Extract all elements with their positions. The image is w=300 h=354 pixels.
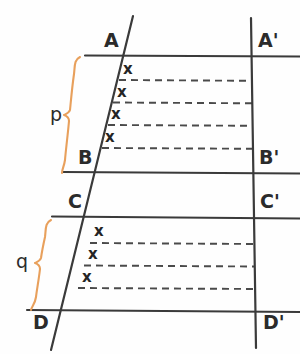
dashed-lines-q-group xyxy=(78,243,255,289)
point-label-b: B xyxy=(78,148,92,167)
dashed-line-q-2 xyxy=(84,266,254,267)
brace-label-p: p xyxy=(50,105,62,124)
segment-mark-q-3: x xyxy=(82,270,92,285)
transversal-lines-group xyxy=(51,16,256,350)
line-cc-prime xyxy=(52,217,300,219)
point-label-d-prime: D' xyxy=(263,313,285,332)
dashed-line-p-3 xyxy=(108,125,253,126)
transversal-right-line xyxy=(251,18,256,348)
segment-mark-q-1: x xyxy=(94,224,104,239)
dashed-line-p-2 xyxy=(113,103,252,104)
line-bb-prime xyxy=(63,172,300,174)
point-label-c: C xyxy=(68,192,82,211)
parallel-lines-group xyxy=(27,56,300,313)
figure-canvas xyxy=(0,0,300,354)
brace-q xyxy=(31,220,51,310)
geometry-figure: A A' B B' C C' D D' p q x x x x x x x xyxy=(0,0,300,354)
line-dd-prime xyxy=(27,310,300,312)
brace-label-q: q xyxy=(16,252,28,271)
dashed-line-p-1 xyxy=(119,80,252,81)
transversal-left-line xyxy=(51,16,133,350)
point-label-d: D xyxy=(33,313,49,332)
segment-mark-p-4: x xyxy=(105,130,115,145)
line-aa-prime xyxy=(85,56,300,57)
segment-mark-p-1: x xyxy=(123,62,133,77)
braces-group xyxy=(31,57,80,310)
segment-mark-p-3: x xyxy=(111,107,121,122)
segment-mark-p-2: x xyxy=(117,85,127,100)
segment-mark-q-2: x xyxy=(88,247,98,262)
point-label-a-prime: A' xyxy=(258,31,279,50)
point-label-c-prime: C' xyxy=(260,192,280,211)
dashed-line-p-4 xyxy=(102,148,253,149)
dashed-line-q-3 xyxy=(78,288,255,289)
dashed-line-q-1 xyxy=(90,243,254,244)
point-label-b-prime: B' xyxy=(259,148,279,167)
point-label-a: A xyxy=(104,31,119,50)
